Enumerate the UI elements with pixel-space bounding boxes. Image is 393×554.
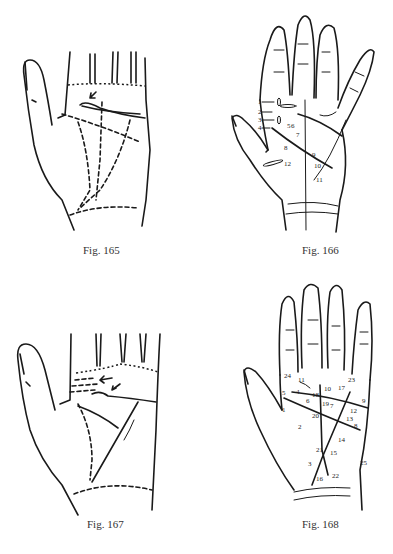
palm-drawing-165 xyxy=(0,30,190,240)
svg-text:1: 1 xyxy=(282,406,286,414)
svg-text:2: 2 xyxy=(298,423,302,431)
svg-text:11: 11 xyxy=(316,176,323,184)
figure-167: Fig. 167 xyxy=(0,310,190,520)
svg-text:9: 9 xyxy=(362,397,366,405)
svg-text:7: 7 xyxy=(330,402,334,410)
svg-text:3: 3 xyxy=(308,460,312,468)
svg-text:5: 5 xyxy=(282,389,286,397)
svg-text:17: 17 xyxy=(338,384,346,392)
svg-text:9: 9 xyxy=(312,151,316,159)
svg-text:7: 7 xyxy=(296,131,300,139)
svg-text:13: 13 xyxy=(346,415,354,423)
svg-text:25: 25 xyxy=(360,459,368,467)
svg-text:3: 3 xyxy=(258,116,262,124)
figure-caption: Fig. 165 xyxy=(83,244,120,256)
svg-text:8: 8 xyxy=(284,144,288,152)
svg-text:1: 1 xyxy=(258,98,262,106)
svg-text:23: 23 xyxy=(348,376,356,384)
palm-drawing-166: 1 2 3 4 56 7 8 9 10 11 12 xyxy=(210,0,393,240)
palm-drawing-168: 1 2 3 4 5 6 7 8 9 10 11 12 13 14 15 16 1… xyxy=(210,280,393,520)
figure-caption: Fig. 167 xyxy=(87,518,124,530)
svg-text:2: 2 xyxy=(258,108,262,116)
figure-caption: Fig. 166 xyxy=(302,244,339,256)
markers-168: 1 2 3 4 5 6 7 8 9 10 11 12 13 14 15 16 1… xyxy=(282,372,368,483)
figure-165: Fig. 165 xyxy=(0,30,190,240)
svg-text:12: 12 xyxy=(350,407,358,415)
figure-168: 1 2 3 4 5 6 7 8 9 10 11 12 13 14 15 16 1… xyxy=(210,280,393,520)
svg-text:12: 12 xyxy=(284,160,292,168)
svg-text:6: 6 xyxy=(306,397,310,405)
figure-166: 1 2 3 4 56 7 8 9 10 11 12 Fig. 166 xyxy=(210,0,393,240)
svg-text:20: 20 xyxy=(312,412,320,420)
svg-text:8: 8 xyxy=(354,422,358,430)
svg-text:10: 10 xyxy=(324,385,332,393)
palm-drawing-167 xyxy=(0,310,190,520)
svg-text:22: 22 xyxy=(332,472,340,480)
svg-text:16: 16 xyxy=(316,475,324,483)
svg-text:10: 10 xyxy=(314,162,322,170)
svg-text:14: 14 xyxy=(338,436,346,444)
svg-text:4: 4 xyxy=(258,124,262,132)
svg-text:24: 24 xyxy=(284,372,292,380)
svg-text:18: 18 xyxy=(312,391,320,399)
svg-text:4: 4 xyxy=(296,388,300,396)
svg-text:15: 15 xyxy=(330,449,338,457)
svg-text:11: 11 xyxy=(298,376,305,384)
figure-caption: Fig. 168 xyxy=(302,518,339,530)
svg-text:21: 21 xyxy=(316,446,324,454)
svg-text:19: 19 xyxy=(322,400,330,408)
svg-text:6: 6 xyxy=(291,122,295,130)
